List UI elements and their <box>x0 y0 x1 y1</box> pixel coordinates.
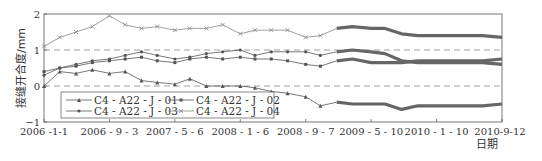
y-axis-label: 接缝开合度/mm <box>14 28 28 108</box>
legend-label: C4 - A22 - J - 03 <box>94 105 178 117</box>
y-tick-label: 0 <box>34 81 40 92</box>
legend-label: C4 - A22 - J - 04 <box>196 105 280 117</box>
x-tick-label: 2008 - 9 - 7 <box>277 126 335 137</box>
y-tick-label: 2 <box>34 9 40 20</box>
legend: C4 - A22 - J - 01C4 - A22 - J - 02C4 - A… <box>61 92 280 118</box>
x-tick-label: 2006 -1-1 <box>20 126 68 137</box>
series-3 <box>42 48 502 76</box>
y-tick-label: 1 <box>34 45 40 56</box>
x-tick-label: 2006 - 9 - 3 <box>81 126 139 137</box>
x-axis-label: 日期 <box>476 138 498 151</box>
x-tick-label: 2009 - 5 - 10 <box>339 126 403 137</box>
gridlines <box>44 50 502 86</box>
chart: −1012 2006 -1-12006 - 9 - 32007 - 5 - 62… <box>0 0 542 161</box>
x-tick-label: 2010 - 1 - 10 <box>405 126 469 137</box>
x-tick-label: 2007 - 5 - 6 <box>146 126 204 137</box>
series-4 <box>42 14 502 49</box>
x-tick-label: 2008 - 1 - 6 <box>211 126 269 137</box>
x-tick-label: 2010-9-12 <box>474 126 525 137</box>
